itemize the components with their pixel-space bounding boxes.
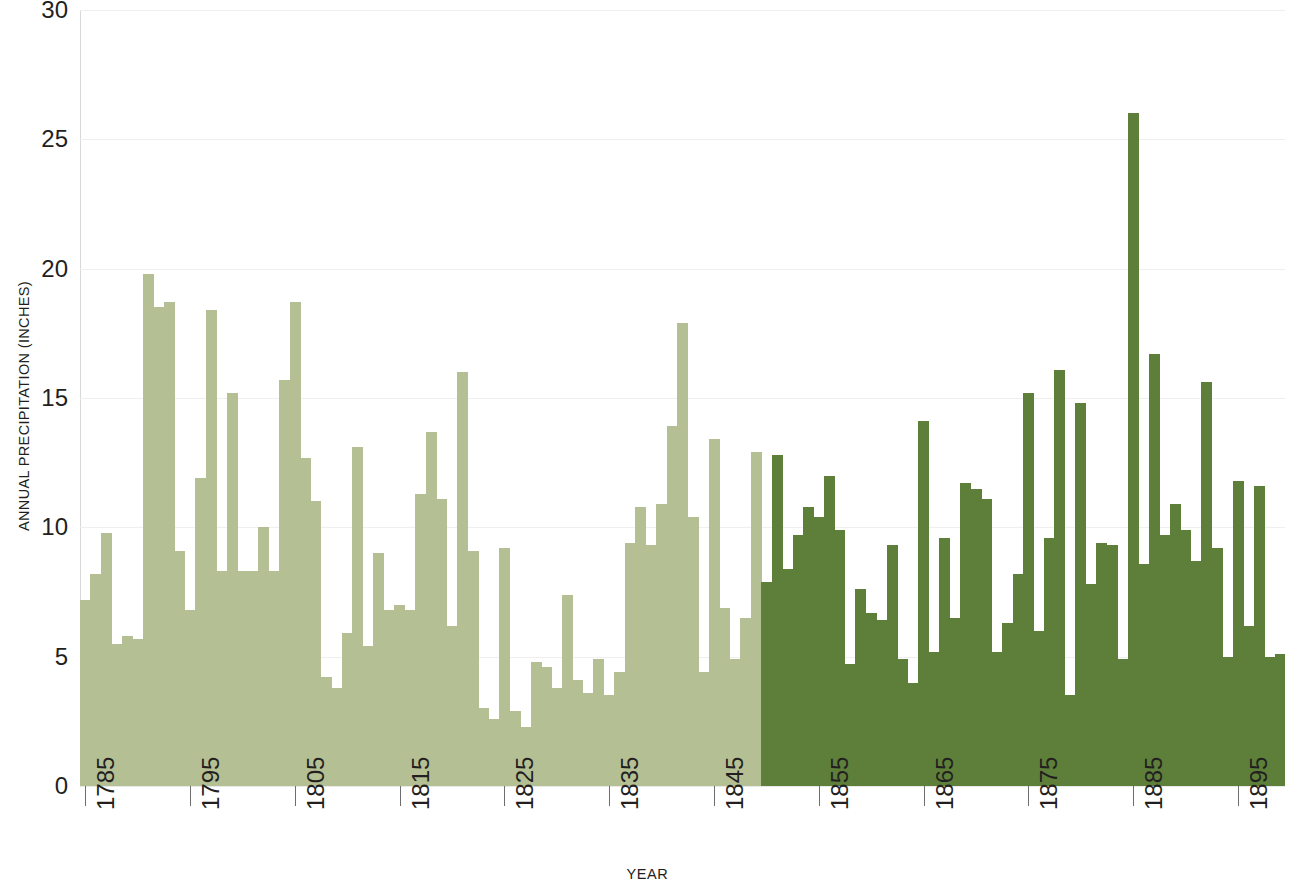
bar — [499, 548, 510, 786]
bar — [981, 499, 992, 786]
bar — [876, 620, 887, 786]
bar — [300, 458, 311, 787]
bar — [960, 483, 971, 786]
y-axis-tick-label: 30 — [20, 0, 68, 22]
x-axis-tick-label: 1895 — [1247, 757, 1271, 810]
bar — [1128, 113, 1139, 786]
y-axis-tick-group: 051015202530 — [0, 0, 68, 890]
bar — [248, 571, 259, 786]
bar — [782, 569, 793, 786]
bar — [352, 447, 363, 786]
x-axis-tick-label: 1795 — [199, 757, 223, 810]
bar — [436, 499, 447, 786]
bar — [1002, 623, 1013, 786]
bar — [866, 613, 877, 786]
x-axis-tick-mark — [400, 786, 401, 806]
bar — [489, 719, 500, 786]
bar — [552, 688, 563, 786]
bar — [1075, 403, 1086, 786]
bar — [1023, 393, 1034, 786]
bar — [227, 393, 238, 786]
x-axis-tick-label: 1845 — [723, 757, 747, 810]
bar — [394, 605, 405, 786]
bar — [1275, 654, 1286, 786]
bar — [279, 380, 290, 786]
bar-group — [80, 10, 1285, 786]
bar — [1138, 564, 1149, 786]
bar — [80, 600, 91, 786]
bar — [761, 582, 772, 786]
bar — [813, 517, 824, 786]
x-axis-tick-mark — [504, 786, 505, 806]
bar — [1180, 530, 1191, 786]
bar — [803, 507, 814, 786]
bar — [1013, 574, 1024, 786]
bar — [1254, 486, 1265, 786]
x-axis-tick-label: 1865 — [933, 757, 957, 810]
bar — [1170, 504, 1181, 786]
bar — [709, 439, 720, 786]
bar — [793, 535, 804, 786]
x-axis-tick-mark — [85, 786, 86, 806]
bar — [855, 589, 866, 786]
bar — [331, 688, 342, 786]
x-axis-tick-mark — [609, 786, 610, 806]
bar — [426, 432, 437, 786]
x-axis-tick-label: 1825 — [513, 757, 537, 810]
bar — [237, 571, 248, 786]
bar — [363, 646, 374, 786]
bar — [677, 323, 688, 786]
bar — [384, 610, 395, 786]
bar — [635, 507, 646, 786]
bar — [132, 639, 143, 786]
bar — [1159, 535, 1170, 786]
bar — [90, 574, 101, 786]
bar — [269, 571, 280, 786]
bar — [1191, 561, 1202, 786]
y-axis-tick-label: 0 — [20, 774, 68, 798]
bar — [373, 553, 384, 786]
bar — [174, 551, 185, 786]
bar — [122, 636, 133, 786]
x-axis-tick-mark — [714, 786, 715, 806]
x-axis-tick-mark — [1133, 786, 1134, 806]
bar — [1201, 382, 1212, 786]
bar — [593, 659, 604, 786]
bar — [824, 476, 835, 786]
bar — [698, 672, 709, 786]
x-axis-tick-mark — [190, 786, 191, 806]
x-axis-tick-mark — [1028, 786, 1029, 806]
bar — [185, 610, 196, 786]
bar — [1054, 370, 1065, 786]
bar — [1233, 481, 1244, 786]
bar — [1086, 584, 1097, 786]
bar — [583, 693, 594, 786]
bar — [772, 455, 783, 786]
y-axis-tick-label: 15 — [20, 386, 68, 410]
x-axis-tick-label: 1875 — [1037, 757, 1061, 810]
y-axis-tick-label: 5 — [20, 645, 68, 669]
bar — [908, 683, 919, 786]
bar — [1107, 545, 1118, 786]
bar — [572, 680, 583, 786]
x-axis-tick-label: 1835 — [618, 757, 642, 810]
bar — [468, 551, 479, 786]
bar — [751, 452, 762, 786]
bar — [918, 421, 929, 786]
bar — [415, 494, 426, 786]
bar — [311, 501, 322, 786]
x-axis-tick-label: 1785 — [94, 757, 118, 810]
bar — [1222, 657, 1233, 786]
bar — [656, 504, 667, 786]
bar — [258, 527, 269, 786]
bar — [1065, 695, 1076, 786]
bar — [1044, 538, 1055, 786]
y-axis-tick-label: 25 — [20, 127, 68, 151]
bar — [153, 307, 164, 786]
bar — [887, 545, 898, 786]
bar — [101, 533, 112, 786]
bar — [206, 310, 217, 786]
bar — [1212, 548, 1223, 786]
bar — [143, 274, 154, 786]
x-axis-tick-mark — [295, 786, 296, 806]
